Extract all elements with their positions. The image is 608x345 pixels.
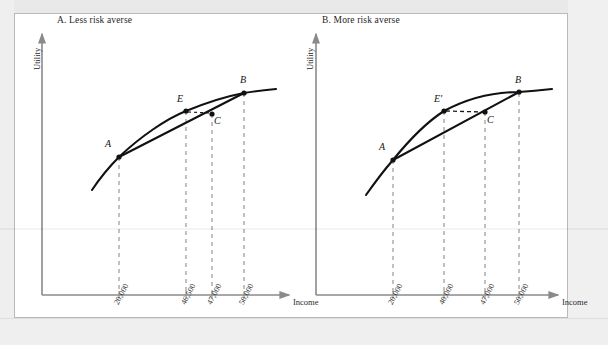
panel-a-axes	[42, 34, 289, 295]
panel-b-x-axis-label: Income	[562, 297, 588, 307]
panel-b-point-A	[390, 157, 395, 162]
panel-b-point-Eprime	[441, 108, 446, 113]
panel-a-label-B: B	[240, 74, 246, 85]
panel-a-y-axis-label: Utility	[32, 48, 42, 70]
panel-a-dashed-guides	[119, 93, 244, 293]
panel-a-x-axis-label: Income	[293, 297, 319, 307]
panel-a-utility-curve	[92, 89, 276, 190]
panel-a-label-E: E	[177, 93, 183, 104]
scan-artifact-line	[0, 228, 608, 230]
panel-b-title: B. More risk averse	[322, 15, 400, 25]
panel-b-label-A: A	[379, 141, 385, 152]
scan-artifact-line-lower	[0, 318, 608, 319]
panel-a-point-A	[116, 154, 121, 159]
panel-a-point-B	[241, 90, 246, 95]
panel-a-point-E	[183, 108, 188, 113]
figure-screenshot: A. Less risk averse B. More risk averse …	[0, 0, 608, 345]
panel-a-label-C: C	[214, 115, 221, 126]
panel-b-chord	[393, 92, 519, 160]
panel-b-label-Eprime: E'	[434, 93, 442, 104]
panel-b-utility-curve	[366, 89, 552, 195]
panel-b-label-C: C	[487, 114, 494, 125]
panel-b-point-B	[516, 89, 521, 94]
panel-b-y-axis-label: Utility	[305, 48, 315, 70]
panel-a-title: A. Less risk averse	[57, 15, 132, 25]
panel-b-label-B: B	[515, 74, 521, 85]
panel-b-dashed-guides	[393, 93, 519, 293]
panel-b-axes	[316, 34, 558, 295]
panel-a-label-A: A	[105, 138, 111, 149]
